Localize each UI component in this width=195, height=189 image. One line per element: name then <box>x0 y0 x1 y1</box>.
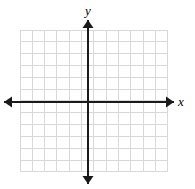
coordinate-plane-figure: y x <box>0 0 195 189</box>
x-axis-arrow-right-icon <box>166 97 174 108</box>
y-axis-arrow-up-icon <box>83 20 94 28</box>
axes-lines <box>4 20 174 184</box>
y-axis-label: y <box>85 4 91 17</box>
graph-svg <box>0 0 195 189</box>
y-axis-arrow-down-icon <box>83 176 94 184</box>
x-axis-arrow-left-icon <box>4 97 12 108</box>
x-axis-label: x <box>178 95 184 108</box>
